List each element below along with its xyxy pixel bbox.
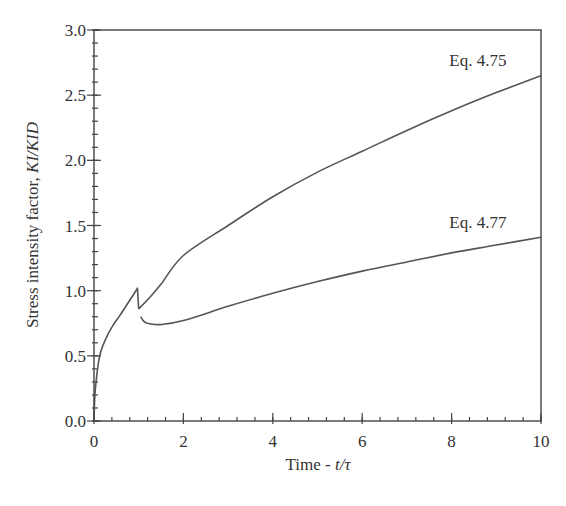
y-tick-label: 1.0 xyxy=(65,282,86,301)
x-axis-title-prefix: Time - xyxy=(286,455,335,474)
x-axis-title: Time - t/τ xyxy=(286,455,352,474)
x-tick-label: 2 xyxy=(179,432,188,451)
y-tick-label: 3.0 xyxy=(65,21,86,40)
x-tick-label: 6 xyxy=(358,432,367,451)
x-axis-title-variable: t/τ xyxy=(335,455,351,474)
annotation-eq-4-75: Eq. 4.75 xyxy=(449,51,506,70)
series-eq-4-77-line xyxy=(141,237,541,324)
initial-loading-line xyxy=(94,288,139,421)
x-tick-label: 4 xyxy=(269,432,278,451)
y-tick-label: 1.5 xyxy=(65,217,86,236)
y-axis-title-prefix: Stress intensity factor, xyxy=(23,173,42,328)
x-tick-label: 0 xyxy=(90,432,99,451)
y-tick-label: 2.5 xyxy=(65,86,86,105)
y-axis-title-variable: KI/KID xyxy=(23,121,42,174)
y-axis-title: Stress intensity factor, KI/KID xyxy=(23,121,42,328)
x-tick-label: 8 xyxy=(447,432,456,451)
y-tick-label: 2.0 xyxy=(65,151,86,170)
y-tick-label: 0.0 xyxy=(65,412,86,431)
line-chart: 02468100.00.51.01.52.02.53.0 Eq. 4.75 Eq… xyxy=(0,0,566,506)
series-group xyxy=(94,76,541,421)
x-tick-label: 10 xyxy=(533,432,550,451)
annotation-eq-4-77: Eq. 4.77 xyxy=(449,213,507,232)
series-eq-4-75-line xyxy=(139,76,541,309)
tick-labels: 02468100.00.51.01.52.02.53.0 xyxy=(65,21,550,451)
y-tick-label: 0.5 xyxy=(65,347,86,366)
